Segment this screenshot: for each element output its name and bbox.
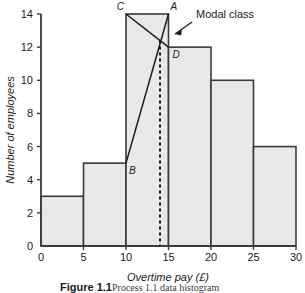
x-tick-label: 25 — [247, 251, 259, 263]
y-tick-label: 0 — [27, 240, 33, 252]
y-tick-label: 10 — [21, 74, 33, 86]
histogram-bar — [84, 163, 127, 246]
histogram-bar — [169, 47, 212, 246]
figure-caption-label: Figure 1.1 — [60, 281, 112, 293]
construction-point-label-d: D — [173, 49, 180, 60]
histogram-chart: 051015202530 02468101214 ABCD Overtime p… — [0, 0, 305, 293]
y-tick-label: 14 — [21, 8, 33, 20]
construction-point-label-b: B — [129, 165, 136, 176]
construction-point-label-c: C — [117, 1, 125, 12]
y-tick-label: 6 — [27, 141, 33, 153]
x-tick-label: 30 — [290, 251, 302, 263]
x-tick-label: 0 — [38, 251, 44, 263]
x-tick-label: 20 — [205, 251, 217, 263]
histogram-bar — [211, 80, 254, 246]
y-tick-label: 2 — [27, 207, 33, 219]
histogram-bar — [41, 196, 84, 246]
modal-class-annotation: Modal class — [196, 8, 255, 20]
construction-point-label-a: A — [170, 1, 178, 12]
y-tick-label: 8 — [27, 107, 33, 119]
x-tick-label: 5 — [80, 251, 86, 263]
figure-caption-text: Process 1.1 data histogram — [112, 282, 219, 293]
x-tick-label: 10 — [120, 251, 132, 263]
x-tick-label: 15 — [162, 251, 174, 263]
y-tick-label: 4 — [27, 174, 33, 186]
figure-container: 051015202530 02468101214 ABCD Overtime p… — [0, 0, 305, 293]
histogram-bar — [254, 147, 297, 246]
histogram-bar — [126, 14, 169, 246]
y-tick-label: 12 — [21, 41, 33, 53]
y-axis-title: Number of employees — [4, 76, 16, 184]
